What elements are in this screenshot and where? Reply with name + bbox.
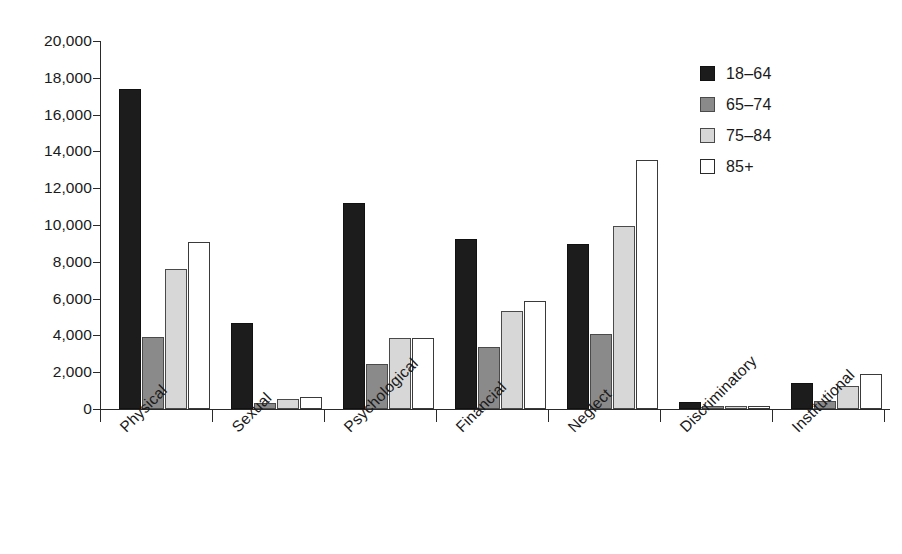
bar [455,239,477,409]
bar [231,323,253,409]
bar [748,406,770,409]
bar [725,406,747,409]
bar [300,397,322,409]
y-tick-label: 16,000 [0,107,92,123]
legend-item[interactable]: 85+ [700,151,772,182]
y-tick-label: 14,000 [0,144,92,160]
bar-group [119,41,210,409]
legend-label: 18–64 [726,66,772,82]
y-tick-mark [93,335,100,336]
y-tick-mark [93,372,100,373]
x-tick-mark [212,409,213,422]
bar-group [455,41,546,409]
legend-item[interactable]: 65–74 [700,89,772,120]
bar [165,269,187,409]
y-tick-mark [93,188,100,189]
y-tick-label: 4,000 [0,328,92,344]
y-tick-label: 0 [0,401,92,417]
bar-chart: 02,0004,0006,0008,00010,00012,00014,0001… [0,0,902,554]
legend-swatch-icon [700,97,715,112]
y-tick-mark [93,262,100,263]
legend-label: 65–74 [726,97,772,113]
legend-item[interactable]: 18–64 [700,58,772,89]
y-tick-label: 8,000 [0,254,92,270]
x-tick-mark [436,409,437,422]
y-tick-label: 18,000 [0,70,92,86]
y-tick-label: 2,000 [0,364,92,380]
x-tick-mark [100,409,101,422]
legend-label: 85+ [726,159,754,175]
bar-group [343,41,434,409]
y-tick-mark [93,225,100,226]
y-tick-mark [93,41,100,42]
bar [636,160,658,409]
y-tick-label: 10,000 [0,217,92,233]
bar [277,399,299,409]
legend: 18–6465–7475–8485+ [700,58,772,182]
x-tick-mark [772,409,773,422]
bar [412,338,434,409]
legend-swatch-icon [700,159,715,174]
x-tick-mark [324,409,325,422]
bar [119,89,141,409]
bar [524,301,546,409]
legend-label: 75–84 [726,128,772,144]
bar [188,242,210,409]
y-tick-label: 6,000 [0,291,92,307]
x-tick-mark [884,409,885,422]
y-tick-mark [93,151,100,152]
x-tick-mark [548,409,549,422]
bar [613,226,635,409]
legend-swatch-icon [700,66,715,81]
bar-group [791,41,882,409]
y-tick-mark [93,115,100,116]
y-tick-mark [93,409,100,410]
y-tick-label: 12,000 [0,180,92,196]
x-tick-mark [660,409,661,422]
y-tick-label: 20,000 [0,33,92,49]
legend-item[interactable]: 75–84 [700,120,772,151]
bar [343,203,365,409]
plot-area [100,41,890,409]
bar-group [231,41,322,409]
bar [860,374,882,409]
bar [567,244,589,409]
y-tick-mark [93,78,100,79]
legend-swatch-icon [700,128,715,143]
y-tick-mark [93,299,100,300]
bar-group [567,41,658,409]
